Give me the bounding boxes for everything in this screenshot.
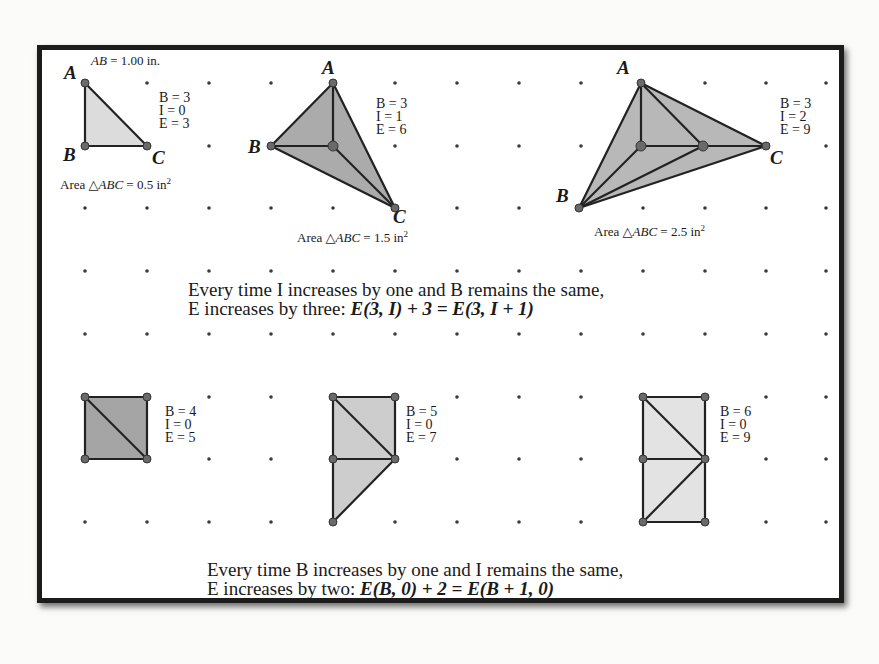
lattice-dot	[703, 269, 707, 273]
lattice-dot	[824, 520, 828, 524]
scale-label: AB = 1.00 in.	[91, 54, 160, 67]
lattice-dot	[703, 206, 707, 210]
area-triangle: ABC	[99, 177, 124, 192]
lattice-dot	[207, 520, 211, 524]
stat-e: E = 9	[720, 431, 751, 444]
lattice-dot	[269, 206, 273, 210]
stat-e: E = 9	[780, 123, 811, 136]
vertex-label-c: C	[152, 148, 165, 167]
lattice-dot	[207, 81, 211, 85]
lattice-dot	[393, 520, 397, 524]
vertex-label-a: A	[617, 58, 630, 77]
lattice-dot	[207, 269, 211, 273]
note-line-2: E increases by three: E(3, I) + 3 = E(3,…	[188, 299, 604, 318]
stats-block: B = 5 I = 0 E = 7	[406, 405, 437, 444]
stat-e: E = 6	[376, 123, 407, 136]
stats-block: B = 4 I = 0 E = 5	[165, 405, 196, 444]
vertex-label-c: C	[393, 207, 406, 226]
lattice-dot	[579, 395, 583, 399]
lattice-dot	[455, 81, 459, 85]
lattice-dot	[83, 206, 87, 210]
lattice-dot	[331, 332, 335, 336]
scale-value: = 1.00 in.	[110, 53, 160, 68]
lattice-dot	[83, 520, 87, 524]
lattice-dot	[455, 520, 459, 524]
lattice-dot	[824, 144, 828, 148]
lattice-dot	[641, 332, 645, 336]
stats-block: B = 3 I = 0 E = 3	[159, 91, 190, 130]
lattice-dot	[641, 206, 645, 210]
lattice-dot	[269, 81, 273, 85]
area-value: = 0.5 in	[123, 177, 166, 192]
lattice-dot	[824, 269, 828, 273]
lattice-dot	[331, 206, 335, 210]
lattice-dot	[455, 144, 459, 148]
area-label: Area △ABC = 1.5 in2	[297, 230, 408, 244]
lattice-dot	[517, 332, 521, 336]
area-exponent: 2	[701, 223, 706, 233]
lattice-dot	[269, 520, 273, 524]
lattice-dot	[517, 269, 521, 273]
area-prefix: Area △	[594, 224, 633, 239]
lattice-dot	[579, 457, 583, 461]
lattice-dot	[824, 332, 828, 336]
lattice-dot	[145, 520, 149, 524]
vertex-label-a: A	[322, 58, 335, 77]
note-formula: E(B, 0) + 2 = E(B + 1, 0)	[360, 578, 554, 599]
stat-e: E = 3	[159, 117, 190, 130]
lattice-dot	[455, 457, 459, 461]
lattice-dot	[579, 269, 583, 273]
lattice-dot	[331, 269, 335, 273]
lattice-dot	[393, 81, 397, 85]
area-label: Area △ABC = 0.5 in2	[60, 177, 171, 191]
area-triangle: ABC	[633, 224, 658, 239]
triangle-b3-i0	[85, 83, 147, 146]
area-value: = 2.5 in	[657, 224, 700, 239]
vertex-label-c: C	[770, 148, 783, 167]
lattice-dot	[207, 206, 211, 210]
lattice-dot	[455, 395, 459, 399]
vertex-label-a: A	[64, 63, 77, 82]
area-triangle: ABC	[336, 230, 361, 245]
lattice-dot	[145, 332, 149, 336]
lattice-dot	[517, 206, 521, 210]
lattice-dot	[393, 144, 397, 148]
triangle-b3-i2	[579, 83, 766, 208]
lattice-dot	[641, 269, 645, 273]
note-line-1: Every time I increases by one and B rema…	[188, 280, 604, 299]
lattice-dot	[764, 206, 768, 210]
lattice-dot	[455, 332, 459, 336]
lattice-dot	[579, 144, 583, 148]
note-text: E increases by three:	[188, 298, 350, 319]
lattice-dot	[764, 269, 768, 273]
area-prefix: Area △	[60, 177, 99, 192]
lattice-dot	[764, 457, 768, 461]
lattice-dot	[764, 81, 768, 85]
stat-e: E = 7	[406, 431, 437, 444]
lattice-dot	[207, 144, 211, 148]
lattice-dot	[517, 144, 521, 148]
lattice-dot	[269, 457, 273, 461]
area-exponent: 2	[404, 229, 409, 239]
lattice-dot	[703, 81, 707, 85]
note-line-1: Every time B increases by one and I rema…	[207, 560, 623, 579]
lattice-dot	[269, 332, 273, 336]
lattice-dot	[703, 332, 707, 336]
vertex-label-b: B	[63, 145, 76, 164]
lattice-dot	[824, 395, 828, 399]
lattice-dot	[764, 332, 768, 336]
lattice-dot	[517, 81, 521, 85]
lattice-dot	[517, 395, 521, 399]
lattice-dot	[517, 520, 521, 524]
vertex-label-b: B	[556, 186, 569, 205]
observation-note-boundary: Every time B increases by one and I rema…	[207, 560, 623, 598]
lattice-dot	[145, 206, 149, 210]
lattice-dot	[83, 269, 87, 273]
note-text: E increases by two:	[207, 578, 360, 599]
stats-block: B = 3 I = 1 E = 6	[376, 97, 407, 136]
lattice-dot	[207, 457, 211, 461]
lattice-dot	[824, 457, 828, 461]
lattice-dot	[269, 395, 273, 399]
lattice-dot	[393, 332, 397, 336]
lattice-dot	[764, 395, 768, 399]
